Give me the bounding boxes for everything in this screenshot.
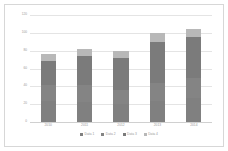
bar-segment[interactable] [186, 29, 201, 37]
legend-swatch-icon [101, 133, 104, 136]
chart-frame: 020406080100120 20102011201220132014 Dat… [4, 4, 224, 147]
bar-segment[interactable] [77, 49, 92, 56]
y-axis-tick-label: 40 [23, 85, 27, 88]
x-axis-tick-labels: 20102011201220132014 [30, 124, 212, 132]
plot-area [30, 15, 212, 122]
y-axis-tick-label: 60 [23, 67, 27, 70]
legend-swatch-icon [80, 133, 83, 136]
bar-segment[interactable] [186, 37, 201, 78]
bar-column[interactable] [41, 54, 56, 122]
bar-segment[interactable] [41, 101, 56, 122]
chart-legend: Data 1Data 2Data 3Data 4 [5, 133, 228, 136]
legend-swatch-icon [144, 133, 147, 136]
bar-column[interactable] [150, 33, 165, 122]
bar-column[interactable] [113, 51, 128, 122]
bar-segment[interactable] [77, 102, 92, 122]
legend-label: Data 2 [106, 133, 116, 136]
bar-segment[interactable] [186, 78, 201, 98]
legend-item[interactable]: Data 1 [80, 133, 94, 136]
bar-segment[interactable] [41, 85, 56, 101]
y-axis-tick-label: 120 [22, 13, 27, 16]
legend-item[interactable]: Data 4 [144, 133, 158, 136]
bar-segment[interactable] [186, 98, 201, 122]
x-axis-tick-label: 2012 [117, 124, 124, 127]
bar-segment[interactable] [77, 85, 92, 102]
x-axis-tick-label: 2011 [81, 124, 88, 127]
legend-label: Data 3 [127, 133, 137, 136]
bar-column[interactable] [186, 29, 201, 122]
legend-label: Data 4 [148, 133, 158, 136]
y-axis-tick-label: 80 [23, 49, 27, 52]
bar-segment[interactable] [150, 33, 165, 42]
bar-segment[interactable] [113, 104, 128, 122]
bar-segment[interactable] [113, 51, 128, 58]
bars-layer [30, 15, 212, 122]
bar-segment[interactable] [113, 90, 128, 104]
x-axis-tick-label: 2013 [154, 124, 161, 127]
bar-segment[interactable] [41, 61, 56, 84]
bar-segment[interactable] [41, 54, 56, 61]
bar-segment[interactable] [113, 58, 128, 90]
bar-column[interactable] [77, 49, 92, 122]
x-axis-tick-label: 2010 [45, 124, 52, 127]
bar-segment[interactable] [77, 56, 92, 85]
bar-segment[interactable] [150, 83, 165, 101]
legend-label: Data 1 [85, 133, 95, 136]
legend-item[interactable]: Data 2 [101, 133, 115, 136]
bar-segment[interactable] [150, 42, 165, 83]
bar-segment[interactable] [150, 101, 165, 122]
y-axis-tick-labels: 020406080100120 [9, 15, 28, 122]
chart-figure: 020406080100120 20102011201220132014 Dat… [0, 0, 228, 151]
y-axis-tick-label: 20 [23, 103, 27, 106]
y-axis-tick-label: 0 [25, 120, 27, 123]
legend-swatch-icon [123, 133, 126, 136]
x-axis-tick-label: 2014 [190, 124, 197, 127]
legend-item[interactable]: Data 3 [123, 133, 137, 136]
y-axis-tick-label: 100 [22, 31, 27, 34]
